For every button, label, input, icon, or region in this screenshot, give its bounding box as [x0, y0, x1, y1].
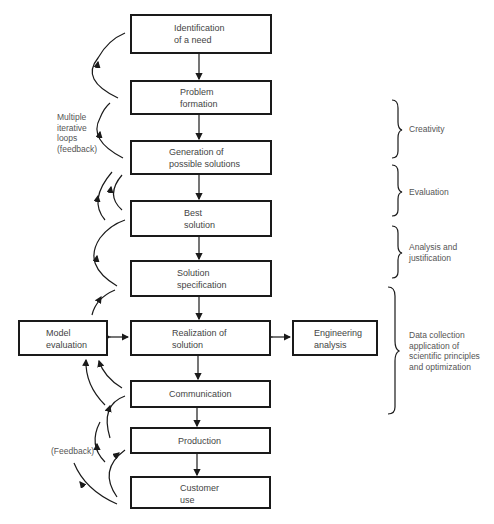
brace-data [388, 287, 399, 414]
feedback-loop-7 [99, 361, 122, 388]
box-engineering-line1: Engineering [314, 328, 362, 339]
feedback-loop-2 [97, 103, 123, 158]
annotation-iterative-line2: iterative [57, 123, 97, 134]
box-realization-line2: solution [172, 340, 203, 351]
feedback-loop-8 [107, 396, 125, 438]
box-engineering-line2: analysis [314, 340, 347, 351]
stage-creativity: Creativity [409, 124, 444, 135]
box-customer: Customer use [130, 476, 271, 509]
annotation-iterative-line4: (feedback) [57, 144, 97, 155]
feedback-loop-4 [94, 220, 125, 286]
box-identification: Identification of a need [130, 14, 272, 54]
box-best-line1: Best [184, 208, 202, 219]
annotation-iterative-loops: Multiple iterative loops (feedback) [57, 112, 97, 154]
box-specification: Solution specification [130, 260, 272, 297]
box-production: Production [130, 427, 271, 454]
box-generation: Generation of possible solutions [130, 140, 272, 175]
box-communication: Communication [130, 380, 271, 408]
box-realization-line1: Realization of [172, 328, 227, 339]
box-specification-line1: Solution [177, 268, 210, 279]
box-customer-line2: use [180, 495, 195, 506]
box-realization: Realization of solution [130, 320, 271, 356]
stage-analysis-line1: Analysis and [409, 242, 457, 253]
box-engineering-analysis: Engineering analysis [292, 320, 378, 356]
annotation-feedback: (Feedback) [51, 446, 94, 457]
stage-evaluation: Evaluation [409, 187, 449, 198]
stage-analysis: Analysis and justification [409, 242, 457, 263]
brace-evaluation [392, 165, 402, 216]
box-best-line2: solution [184, 220, 215, 231]
box-model-line2: evaluation [46, 340, 87, 351]
stage-analysis-line2: justification [409, 253, 457, 264]
box-problem-line2: formation [180, 99, 218, 110]
feedback-loop-6 [86, 360, 105, 405]
box-communication-line1: Communication [169, 389, 232, 400]
feedback-loop-10 [109, 450, 125, 497]
stage-creativity-line1: Creativity [409, 124, 444, 135]
box-model-evaluation: Model evaluation [18, 320, 108, 356]
box-identification-line1: Identification [174, 23, 225, 34]
box-customer-line1: Customer [180, 483, 219, 494]
brace-analysis [392, 226, 402, 278]
box-production-line1: Production [178, 436, 221, 447]
feedback-loop-9 [95, 422, 105, 462]
box-problem-line1: Problem [180, 87, 214, 98]
annotation-iterative-line3: loops [57, 133, 97, 144]
box-specification-line2: specification [177, 280, 227, 291]
stage-data-collection: Data collection application of scientifi… [409, 330, 480, 372]
annotation-iterative-line1: Multiple [57, 112, 97, 123]
box-identification-line2: of a need [174, 35, 212, 46]
stage-data-line2: application of [409, 341, 480, 352]
box-generation-line1: Generation of [169, 147, 224, 158]
box-generation-line2: possible solutions [169, 159, 240, 170]
stage-data-line4: and optimization [409, 362, 480, 373]
feedback-loop-3a [98, 172, 112, 220]
stage-data-line1: Data collection [409, 330, 480, 341]
brace-creativity [392, 100, 402, 158]
stage-evaluation-line1: Evaluation [409, 187, 449, 198]
box-best: Best solution [130, 200, 272, 237]
feedback-loop-5 [92, 290, 115, 315]
feedback-loop-3b [114, 175, 123, 210]
box-model-line1: Model [46, 328, 71, 339]
stage-data-line3: scientific principles [409, 351, 480, 362]
box-problem: Problem formation [130, 80, 272, 115]
